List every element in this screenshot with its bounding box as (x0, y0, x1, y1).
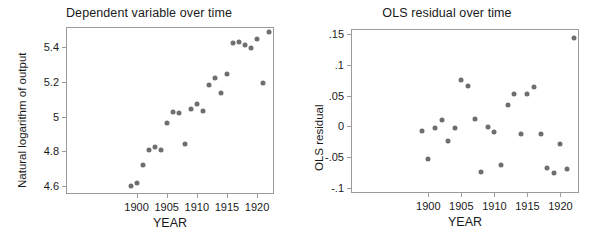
data-point (182, 142, 187, 147)
x-axis-tick (527, 193, 528, 197)
data-point (485, 125, 490, 130)
data-point (545, 166, 550, 171)
chart-title: OLS residual over time (298, 6, 596, 20)
data-point (446, 138, 451, 143)
y-axis-tick (347, 126, 351, 127)
y-axis-tick (62, 186, 66, 187)
y-axis-tick-label: .15 (309, 28, 344, 40)
data-point (565, 166, 570, 171)
x-axis-label: YEAR (66, 216, 274, 230)
data-point (206, 82, 211, 87)
data-point (237, 40, 242, 45)
y-axis-tick (347, 96, 351, 97)
x-axis-tick-label: 1905 (449, 200, 473, 212)
y-axis-tick-label: 5.4 (24, 41, 59, 53)
data-point (492, 129, 497, 134)
data-point (243, 42, 248, 47)
data-point (128, 183, 133, 188)
y-axis-tick-label: 5.2 (24, 76, 59, 88)
data-point (512, 92, 517, 97)
data-point (158, 147, 163, 152)
data-point (200, 108, 205, 113)
x-axis-tick-label: 1905 (154, 201, 178, 213)
data-point (426, 157, 431, 162)
x-axis-tick (227, 194, 228, 198)
chart-title: Dependent variable over time (0, 6, 298, 20)
x-axis-tick-label: 1910 (482, 200, 506, 212)
data-point (558, 142, 563, 147)
data-point (218, 91, 223, 96)
data-point (465, 83, 470, 88)
x-axis-tick (428, 193, 429, 197)
data-point (176, 110, 181, 115)
data-point (249, 46, 254, 51)
data-point (505, 102, 510, 107)
y-axis-tick-label: .05 (309, 90, 344, 102)
y-axis-tick (347, 65, 351, 66)
y-axis-tick (62, 117, 66, 118)
x-axis-tick-label: 1900 (416, 200, 440, 212)
x-axis-tick (137, 194, 138, 198)
data-point (194, 101, 199, 106)
x-axis-tick-label: 1915 (215, 201, 239, 213)
y-axis-tick (347, 157, 351, 158)
y-axis-tick-label: 4.8 (24, 145, 59, 157)
data-point (518, 131, 523, 136)
data-point (432, 125, 437, 130)
y-axis-tick (347, 34, 351, 35)
data-point (170, 109, 175, 114)
x-axis-tick-label: 1910 (185, 201, 209, 213)
y-axis-tick-label: .1 (309, 59, 344, 71)
y-axis-tick-label: -.1 (309, 182, 344, 194)
data-point (571, 36, 576, 41)
data-point (212, 76, 217, 81)
data-point (188, 106, 193, 111)
panel-dependent-variable: Dependent variable over time Natural log… (0, 0, 298, 241)
data-point (459, 77, 464, 82)
y-axis-tick-label: 5 (24, 111, 59, 123)
x-axis-tick (197, 194, 198, 198)
x-axis-tick (494, 193, 495, 197)
data-point (152, 145, 157, 150)
data-point (224, 71, 229, 76)
y-axis-tick-label: 4.6 (24, 180, 59, 192)
data-point (532, 84, 537, 89)
x-axis-tick-label: 1920 (245, 201, 269, 213)
data-point (472, 117, 477, 122)
data-point (164, 120, 169, 125)
data-point (525, 92, 530, 97)
x-axis-tick (560, 193, 561, 197)
data-point (551, 170, 556, 175)
data-point (538, 131, 543, 136)
data-point (419, 129, 424, 134)
x-axis-tick (461, 193, 462, 197)
data-point (452, 126, 457, 131)
x-axis-tick (257, 194, 258, 198)
data-point (499, 162, 504, 167)
figure-two-scatter-panels: Dependent variable over time Natural log… (0, 0, 597, 241)
data-point (146, 148, 151, 153)
x-axis-tick-label: 1915 (515, 200, 539, 212)
y-axis-tick (62, 82, 66, 83)
y-axis-tick-label: -.05 (309, 151, 344, 163)
x-axis-tick (167, 194, 168, 198)
data-point (255, 36, 260, 41)
y-axis-tick-label: 0 (309, 120, 344, 132)
data-point (140, 163, 145, 168)
x-axis-tick-label: 1920 (548, 200, 572, 212)
data-point (439, 117, 444, 122)
data-point (231, 41, 236, 46)
data-point (479, 170, 484, 175)
data-point (267, 30, 272, 35)
data-point (261, 80, 266, 85)
x-axis-tick-label: 1900 (124, 201, 148, 213)
data-point (134, 181, 139, 186)
x-axis-label: YEAR (351, 215, 579, 229)
panel-ols-residual: OLS residual over time OLS residual YEAR… (298, 0, 596, 241)
y-axis-tick (347, 188, 351, 189)
y-axis-tick (62, 47, 66, 48)
y-axis-tick (62, 151, 66, 152)
